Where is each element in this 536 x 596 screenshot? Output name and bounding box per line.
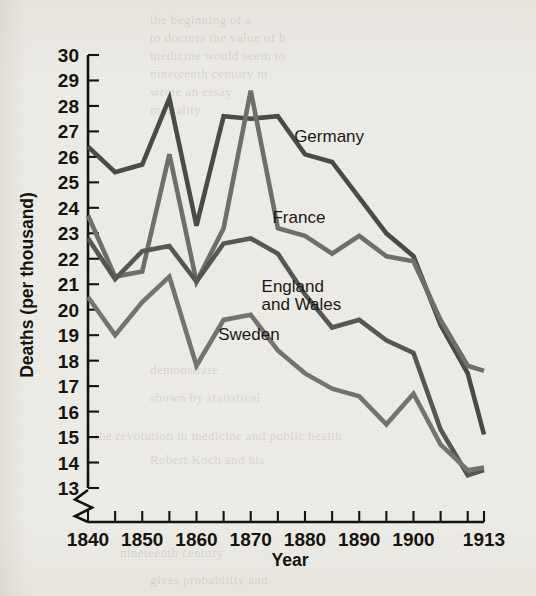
y-tick-label-30: 30 bbox=[58, 45, 79, 66]
y-tick-label-21: 21 bbox=[58, 274, 80, 295]
y-tick-label-25: 25 bbox=[58, 172, 80, 193]
y-tick-label-26: 26 bbox=[58, 147, 79, 168]
y-tick-label-29: 29 bbox=[58, 70, 79, 91]
y-tick-label-22: 22 bbox=[58, 249, 79, 270]
x-tick-label-1860: 1860 bbox=[175, 529, 217, 550]
y-tick-label-18: 18 bbox=[58, 351, 79, 372]
y-tick-label-20: 20 bbox=[58, 300, 79, 321]
series-label-france: France bbox=[272, 208, 325, 227]
y-axis-title: Deaths (per thousand) bbox=[17, 192, 37, 378]
y-tick-label-16: 16 bbox=[58, 402, 79, 423]
x-axis-ticks bbox=[88, 511, 484, 522]
series-label-england-and-wales: Englandand Wales bbox=[262, 277, 342, 314]
x-tick-label-1890: 1890 bbox=[338, 529, 380, 550]
x-tick-label-1870: 1870 bbox=[230, 529, 272, 550]
x-tick-label-1880: 1880 bbox=[284, 529, 326, 550]
x-tick-label-1850: 1850 bbox=[121, 529, 163, 550]
y-tick-label-28: 28 bbox=[58, 96, 79, 117]
line-chart-figure: 131415161718192021222324252627282930 184… bbox=[0, 0, 536, 596]
y-axis-ticks bbox=[88, 55, 99, 488]
series-label-sweden: Sweden bbox=[218, 325, 279, 344]
y-tick-label-24: 24 bbox=[58, 198, 80, 219]
series-line-france bbox=[88, 91, 484, 371]
x-tick-label-1840: 1840 bbox=[67, 529, 109, 550]
y-tick-label-14: 14 bbox=[58, 453, 80, 474]
y-tick-label-17: 17 bbox=[58, 376, 79, 397]
y-tick-label-27: 27 bbox=[58, 121, 79, 142]
y-tick-label-15: 15 bbox=[58, 427, 80, 448]
x-tick-label-1900: 1900 bbox=[392, 529, 434, 550]
y-axis-tick-labels: 131415161718192021222324252627282930 bbox=[58, 45, 80, 499]
y-tick-label-19: 19 bbox=[58, 325, 79, 346]
x-tick-label-1913: 1913 bbox=[463, 529, 505, 550]
y-tick-label-13: 13 bbox=[58, 478, 79, 499]
chart-svg: 131415161718192021222324252627282930 184… bbox=[0, 0, 536, 596]
x-axis-title: Year bbox=[272, 550, 309, 570]
series-inline-labels: GermanyFranceEnglandand WalesSweden bbox=[218, 127, 364, 345]
x-axis-tick-labels: 18401850186018701880189019001913 bbox=[67, 529, 505, 550]
y-tick-label-23: 23 bbox=[58, 223, 79, 244]
series-label-germany: Germany bbox=[294, 127, 364, 146]
